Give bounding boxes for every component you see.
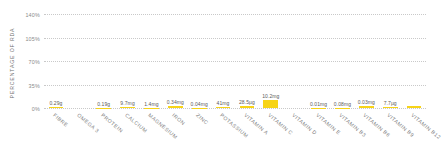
- y-axis-tick-label: 35%: [29, 83, 40, 89]
- bar-column: [68, 14, 92, 108]
- bar-column: 10.2mg: [259, 14, 283, 108]
- bar: [168, 106, 183, 108]
- bar-value-label: 1.4mg: [144, 101, 158, 107]
- bar-column: 1.4mg: [140, 14, 164, 108]
- x-axis-label-cell: CALCIUM: [116, 110, 140, 166]
- bar-column: 9.7mg: [116, 14, 140, 108]
- bar: [216, 107, 231, 108]
- x-axis-labels-group: FIBREOMEGA 3PROTEINCALCIUMMAGNESIUMIRONZ…: [44, 110, 426, 166]
- x-axis-label-cell: VITAMIN C: [259, 110, 283, 166]
- bar-value-label: 0.29g: [49, 100, 62, 106]
- bar: [240, 106, 255, 108]
- bar-column: 0.01mg: [307, 14, 331, 108]
- bar: [359, 106, 374, 108]
- bars-group: 0.29g0.19g9.7mg1.4mg0.34mg0.04mg41mg28.5…: [44, 14, 426, 108]
- plot-area: 0%35%70%105%140% 0.29g0.19g9.7mg1.4mg0.3…: [44, 14, 426, 108]
- bar-column: [283, 14, 307, 108]
- x-axis-tick-label: ZINC: [195, 112, 210, 126]
- bar: [383, 107, 398, 108]
- x-axis-label-cell: VITAMIN B12: [402, 110, 426, 166]
- bar-value-label: 0.04mg: [191, 101, 208, 107]
- x-axis-label-cell: VITAMIN A: [235, 110, 259, 166]
- y-axis-tick-label: 105%: [25, 36, 40, 42]
- bar-column: 28.5µg: [235, 14, 259, 108]
- bar-value-label: 28.5µg: [239, 99, 255, 105]
- x-axis-label-cell: FIBRE: [44, 110, 68, 166]
- bar-column: 0.29g: [44, 14, 68, 108]
- bar-value-label: 41mg: [217, 100, 230, 106]
- x-axis-label-cell: OMEGA 3: [68, 110, 92, 166]
- gridline: 0%: [44, 108, 426, 109]
- x-axis-label-cell: POTASSIUM: [211, 110, 235, 166]
- x-axis-label-cell: PROTEIN: [92, 110, 116, 166]
- y-axis-title: PERCENTAGE OF RDA: [9, 18, 15, 108]
- x-axis-tick-label: VITAMIN B12: [410, 112, 442, 140]
- bar-value-label: 7.7µg: [384, 100, 397, 106]
- x-axis-label-cell: ZINC: [187, 110, 211, 166]
- bar: [407, 106, 422, 108]
- bar-column: 0.34mg: [163, 14, 187, 108]
- bar-value-label: 0.34mg: [167, 99, 184, 105]
- bar-value-label: 10.2mg: [262, 93, 279, 99]
- x-axis-label-cell: VITAMIN B9: [378, 110, 402, 166]
- x-axis-label-cell: VITAMIN E: [307, 110, 331, 166]
- bar-column: 0.04mg: [187, 14, 211, 108]
- x-axis-tick-label: IRON: [171, 112, 186, 126]
- bar-column: 0.19g: [92, 14, 116, 108]
- x-axis-label-cell: VITAMIN D: [283, 110, 307, 166]
- bar-column: 7.7µg: [378, 14, 402, 108]
- bar-value-label: 0.19g: [97, 101, 110, 107]
- bar-column: 0.08mg: [331, 14, 355, 108]
- bar-value-label: 9.7mg: [120, 100, 134, 106]
- bar: [120, 107, 135, 108]
- y-axis-tick-label: 140%: [25, 12, 40, 18]
- bar-value-label: 0.08mg: [334, 101, 351, 107]
- x-axis-label-cell: VITAMIN B3: [331, 110, 355, 166]
- bar: [49, 107, 64, 108]
- y-axis-tick-label: 70%: [29, 59, 40, 65]
- x-axis-label-cell: VITAMIN B6: [354, 110, 378, 166]
- bar-column: [402, 14, 426, 108]
- y-axis-tick-label: 0%: [32, 106, 40, 112]
- x-axis-label-cell: IRON: [163, 110, 187, 166]
- bar-value-label: 0.01mg: [310, 101, 327, 107]
- bar-column: 0.03mg: [354, 14, 378, 108]
- bar: [263, 100, 278, 108]
- bar-column: 41mg: [211, 14, 235, 108]
- x-axis-label-cell: MAGNESIUM: [140, 110, 164, 166]
- bar-value-label: 0.03mg: [358, 99, 375, 105]
